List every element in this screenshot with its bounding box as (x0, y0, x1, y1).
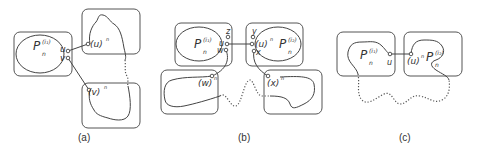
label-p: P (33, 39, 41, 53)
label-p1-sup: (i₁) (369, 47, 378, 54)
label-u-image: (u) (90, 39, 103, 49)
label-v-image-sup: n (104, 84, 107, 90)
label-p1: P (194, 37, 202, 51)
label-p1-sub: n (203, 48, 207, 55)
label-u-image-sup: n (106, 36, 109, 42)
label-p-sup: (i₁) (42, 38, 51, 45)
node-w (224, 48, 228, 52)
label-p1-sub: n (369, 59, 373, 66)
dotted-path-a (125, 60, 128, 86)
label-w: w (217, 46, 224, 55)
label-u-image: (u) (407, 56, 420, 66)
diagram-canvas: P n (i₁) u v (u) n (v) n (a) (0, 0, 479, 152)
node-u (66, 49, 70, 53)
node-u-image (250, 42, 254, 46)
node-v (66, 56, 70, 60)
caption-b: (b) (238, 132, 250, 143)
edge-v (68, 58, 89, 90)
label-x-image-sup: n (281, 75, 284, 81)
label-p2-sub: n (435, 61, 439, 68)
caption-c: (c) (399, 132, 411, 143)
label-u-image-sup: n (421, 53, 424, 59)
label-p2: P (426, 50, 434, 64)
node-u (388, 52, 392, 56)
label-z: z (225, 27, 231, 36)
label-p2-sup: (i₂) (288, 36, 297, 43)
caption-a: (a) (78, 132, 90, 143)
label-w-image: (w) (198, 78, 212, 88)
label-p2: P (279, 37, 287, 51)
edge-u (68, 44, 88, 51)
panel-c: P n (i₁) u (u) n P n (i₂) (c) (337, 32, 462, 143)
label-p2-sup: (i₂) (435, 49, 444, 56)
label-u-image-sup: n (270, 36, 273, 42)
node-u (225, 42, 229, 46)
dotted-path-b (220, 80, 270, 106)
label-y: y (251, 27, 257, 36)
dotted-path-c (358, 74, 449, 104)
label-p-sub: n (42, 50, 46, 57)
panel-b: P n (i₁) P n (i₂) z u w y (u) n x (w) n … (161, 23, 322, 143)
label-p2-sub: n (288, 48, 292, 55)
panel-a: P n (i₁) u v (u) n (v) n (a) (14, 9, 140, 143)
label-w-image-sup: n (214, 75, 217, 81)
label-x: x (255, 48, 261, 57)
label-x-image: (x) (267, 78, 279, 88)
label-v: v (60, 53, 66, 63)
label-p1: P (360, 48, 368, 62)
label-u: u (387, 58, 392, 67)
label-v-image: (v) (88, 87, 100, 97)
label-p1-sup: (i₁) (203, 36, 212, 43)
